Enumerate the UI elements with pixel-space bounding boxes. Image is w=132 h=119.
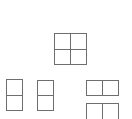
divider <box>102 81 103 95</box>
layout-label: Left/right split layout <box>87 81 88 82</box>
divider <box>55 49 86 50</box>
divider <box>102 104 103 119</box>
grid-2x2-layout-icon[interactable]: 2x2 grid layout <box>54 33 87 65</box>
left-right-split-layout-icon[interactable]: Left/right split layout <box>86 80 119 96</box>
divider <box>7 95 22 96</box>
layout-label: Top/bottom split layout <box>38 81 39 82</box>
layout-label: Top/bottom split layout <box>7 80 8 81</box>
divider <box>38 95 53 96</box>
top-bottom-split-layout-icon[interactable]: Top/bottom split layout <box>37 80 54 111</box>
left-right-split-layout-icon[interactable]: Left/right split layout <box>86 103 119 119</box>
layout-label: 2x2 grid layout <box>55 34 56 35</box>
layout-label: Left/right split layout <box>87 104 88 105</box>
top-bottom-split-layout-icon[interactable]: Top/bottom split layout <box>6 79 23 111</box>
